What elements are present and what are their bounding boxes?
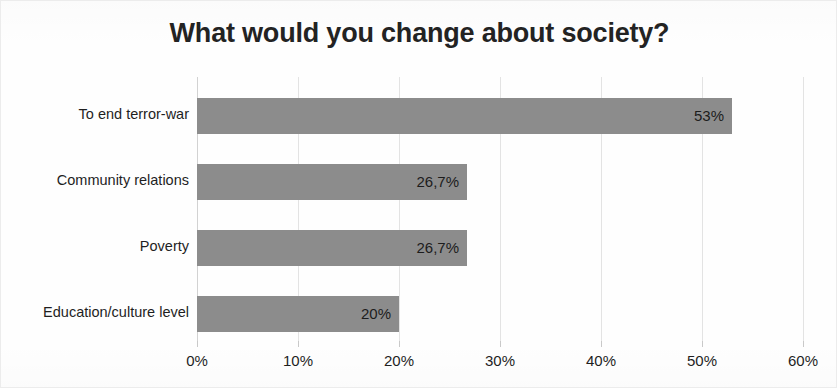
axis-tick-label: 10% — [268, 352, 328, 369]
axis-tick-label: 0% — [167, 352, 227, 369]
bar-value-label: 26,7% — [416, 164, 459, 200]
bar-chart-figure: What would you change about society? To … — [0, 0, 837, 388]
axis-tick-mark — [803, 341, 804, 347]
bar-row: 53% — [197, 98, 732, 134]
axis-tick-label: 30% — [470, 352, 530, 369]
axis-tick-mark — [702, 341, 703, 347]
bar-row: 26,7% — [197, 164, 467, 200]
bar-value-label: 53% — [694, 98, 724, 134]
bar-value-label: 20% — [361, 296, 391, 332]
bar — [197, 98, 732, 134]
gridline — [803, 77, 804, 341]
bar-value-label: 26,7% — [416, 230, 459, 266]
bar-row: 26,7% — [197, 230, 467, 266]
category-label: Poverty — [3, 238, 189, 254]
axis-tick-mark — [399, 341, 400, 347]
value-axis: 0%10%20%30%40%50%60% — [197, 341, 803, 388]
axis-tick-mark — [601, 341, 602, 347]
axis-tick-label: 40% — [571, 352, 631, 369]
category-label: To end terror-war — [3, 106, 189, 122]
category-label: Education/culture level — [3, 304, 189, 320]
category-label: Community relations — [3, 172, 189, 188]
axis-tick-mark — [298, 341, 299, 347]
bar-row: 20% — [197, 296, 399, 332]
plot-area: 53%26,7%26,7%20% — [197, 77, 803, 341]
axis-tick-label: 60% — [773, 352, 833, 369]
axis-tick-mark — [197, 341, 198, 347]
axis-tick-label: 20% — [369, 352, 429, 369]
category-axis-labels: To end terror-warCommunity relationsPove… — [1, 77, 189, 341]
axis-tick-mark — [500, 341, 501, 347]
axis-tick-label: 50% — [672, 352, 732, 369]
chart-title: What would you change about society? — [1, 18, 837, 49]
